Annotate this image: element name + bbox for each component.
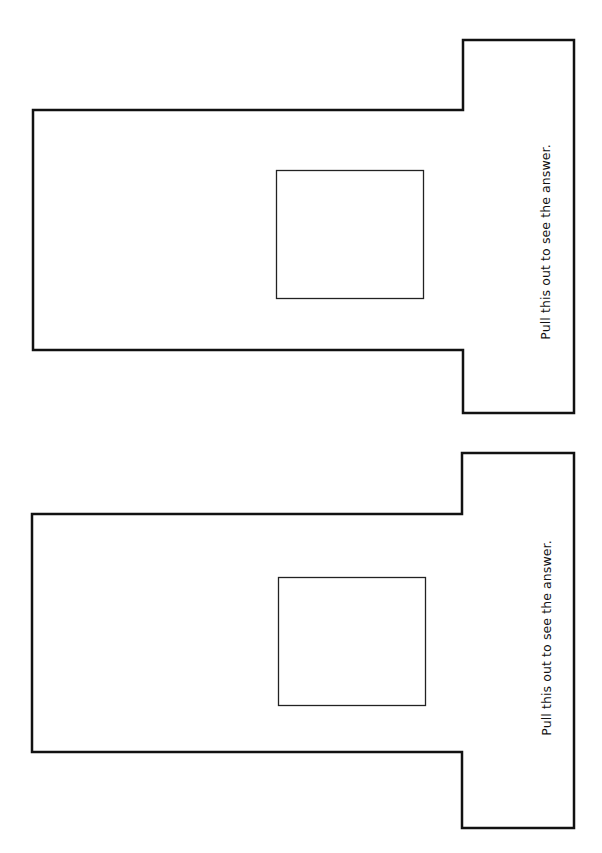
cutout-bottom-outline bbox=[0, 0, 602, 853]
answer-window bbox=[279, 578, 426, 706]
cutout-bottom: Pull this out to see the answer. bbox=[0, 0, 602, 853]
pull-tab-label[interactable]: Pull this out to see the answer. bbox=[539, 540, 554, 735]
t-shape-outline bbox=[32, 453, 574, 828]
